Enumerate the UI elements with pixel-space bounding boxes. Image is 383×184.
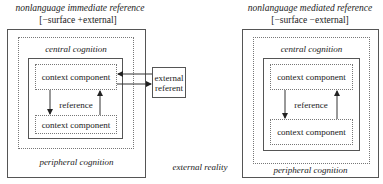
arrows-layer	[0, 0, 383, 184]
